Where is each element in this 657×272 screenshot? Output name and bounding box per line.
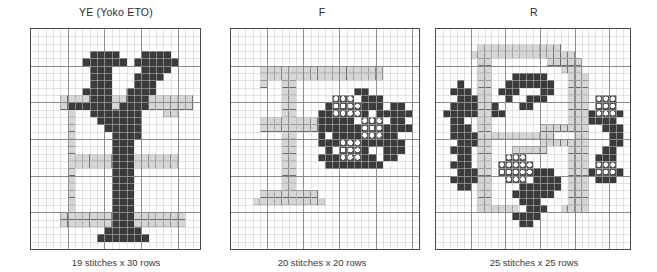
chart-panel-f: F 20 stitches x 20 rows xyxy=(218,0,426,272)
chart-caption-r: 25 stitches x 25 rows xyxy=(426,257,642,268)
chart-title-ye: YE (Yoko ETO) xyxy=(14,6,218,18)
chart-grid-r xyxy=(435,28,631,250)
chart-panel-ye: YE (Yoko ETO) 19 stitches x 30 rows xyxy=(14,0,218,272)
chart-grid-canvas-ye xyxy=(31,29,200,249)
chart-panel-r: R 25 stitches x 25 rows xyxy=(426,0,642,272)
chart-title-f: F xyxy=(218,6,426,18)
chart-grid-canvas-r xyxy=(436,29,630,249)
pattern-sheet: YE (Yoko ETO) 19 stitches x 30 rows F 20… xyxy=(0,0,657,272)
chart-grid-f xyxy=(230,28,420,250)
chart-title-r: R xyxy=(426,6,642,18)
chart-caption-ye: 19 stitches x 30 rows xyxy=(14,257,218,268)
chart-grid-ye xyxy=(30,28,201,250)
chart-grid-canvas-f xyxy=(231,29,419,249)
chart-caption-f: 20 stitches x 20 rows xyxy=(218,257,426,268)
